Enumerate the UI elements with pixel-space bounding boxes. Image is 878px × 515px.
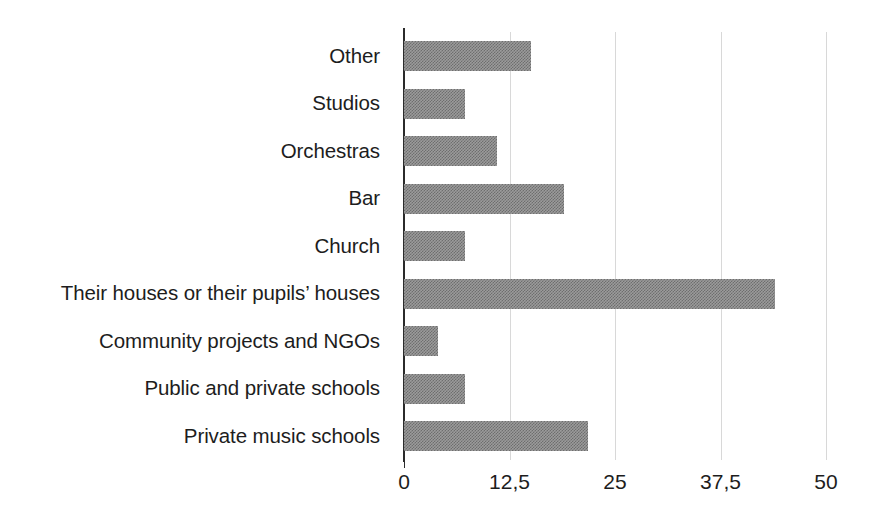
gridline-12-5 bbox=[510, 32, 511, 460]
category-label: Public and private schools bbox=[144, 378, 392, 399]
bar-orchestras bbox=[404, 136, 497, 166]
tick-label-0: 0 bbox=[398, 471, 410, 492]
category-band: Orchestras bbox=[0, 127, 392, 175]
gridline-25 bbox=[615, 32, 616, 460]
tick-mark-0 bbox=[404, 462, 405, 468]
category-label: Orchestras bbox=[281, 141, 392, 162]
category-label: Their houses or their pupils’ houses bbox=[61, 283, 392, 304]
bar-private-music-schools bbox=[404, 421, 588, 451]
bar-other bbox=[404, 41, 531, 71]
gridline-50 bbox=[826, 32, 827, 460]
category-band: Public and private schools bbox=[0, 365, 392, 413]
category-label: Studios bbox=[312, 93, 392, 114]
bar-studios bbox=[404, 89, 465, 119]
category-label: Bar bbox=[348, 188, 392, 209]
category-band: Their houses or their pupils’ houses bbox=[0, 270, 392, 318]
bar-community-projects-and-ngos bbox=[404, 326, 438, 356]
tick-label-37-5: 37,5 bbox=[700, 471, 741, 492]
plot-area bbox=[404, 32, 826, 460]
category-axis: Other Studios Orchestras Bar Church Thei… bbox=[0, 32, 392, 460]
bar-public-and-private-schools bbox=[404, 374, 465, 404]
gridline-37-5 bbox=[721, 32, 722, 460]
category-band: Studios bbox=[0, 80, 392, 128]
tick-label-12-5: 12,5 bbox=[489, 471, 530, 492]
category-label: Community projects and NGOs bbox=[99, 331, 392, 352]
category-band: Bar bbox=[0, 175, 392, 223]
value-axis: 0 12,5 25 37,5 50 bbox=[404, 462, 826, 502]
category-label: Church bbox=[315, 236, 393, 257]
category-band: Community projects and NGOs bbox=[0, 317, 392, 365]
bar-chart: Other Studios Orchestras Bar Church Thei… bbox=[0, 0, 878, 515]
category-label: Other bbox=[329, 46, 392, 67]
category-band: Other bbox=[0, 32, 392, 80]
category-band: Church bbox=[0, 222, 392, 270]
bar-their-houses-or-their-pupils-houses bbox=[404, 279, 775, 309]
bar-church bbox=[404, 231, 465, 261]
tick-label-25: 25 bbox=[603, 471, 626, 492]
bar-bar bbox=[404, 184, 564, 214]
tick-label-50: 50 bbox=[814, 471, 837, 492]
category-label: Private music schools bbox=[184, 426, 392, 447]
category-band: Private music schools bbox=[0, 412, 392, 460]
